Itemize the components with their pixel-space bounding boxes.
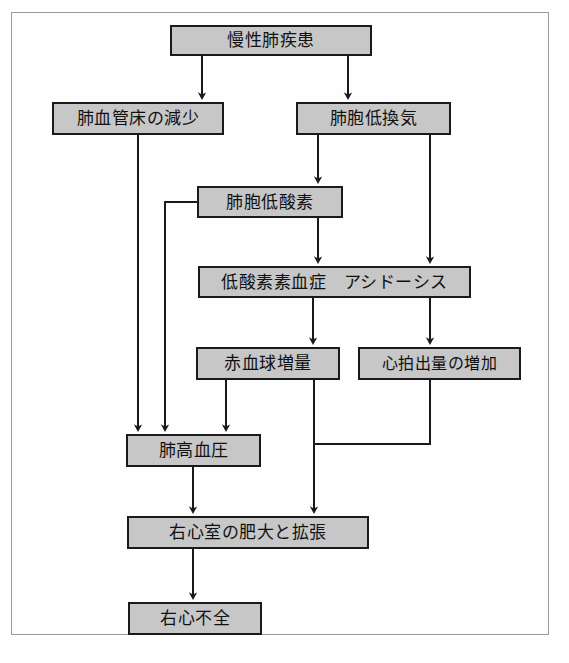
node-alveolar-hypoxia[interactable]: 肺胞低酸素 xyxy=(197,186,343,218)
node-label-chronic-lung-disease: 慢性肺疾患 xyxy=(227,32,315,49)
node-right-heart-failure[interactable]: 右心不全 xyxy=(128,602,262,635)
node-label-pulmonary-hypertension: 肺高血圧 xyxy=(159,442,229,459)
node-hypoxemia-acidosis[interactable]: 低酸素素血症 アシドーシス xyxy=(198,266,471,298)
connector-group xyxy=(138,56,430,596)
node-chronic-lung-disease[interactable]: 慢性肺疾患 xyxy=(170,25,372,56)
node-pulmonary-hypertension[interactable]: 肺高血圧 xyxy=(126,434,261,467)
node-alveolar-hypoventilation[interactable]: 肺胞低換気 xyxy=(296,102,451,135)
node-erythrocytosis[interactable]: 赤血球増量 xyxy=(196,347,340,380)
node-label-increased-cardiac-output: 心拍出量の増加 xyxy=(382,356,498,372)
node-label-erythrocytosis: 赤血球増量 xyxy=(224,355,312,372)
node-label-alveolar-hypoventilation: 肺胞低換気 xyxy=(330,110,418,127)
node-rv-hypertrophy-dilation[interactable]: 右心室の肥大と拡張 xyxy=(127,516,369,549)
node-label-hypoxemia-acidosis: 低酸素素血症 アシドーシス xyxy=(221,274,448,291)
node-label-rv-hypertrophy-dilation: 右心室の肥大と拡張 xyxy=(169,524,327,541)
connector-layer xyxy=(0,0,569,663)
connector-alveolar-hypoxia-to-pulmonary-hypertension xyxy=(165,202,197,428)
node-label-reduced-pulmonary-vascular-bed: 肺血管床の減少 xyxy=(77,110,200,127)
node-reduced-pulmonary-vascular-bed[interactable]: 肺血管床の減少 xyxy=(52,102,224,135)
node-label-right-heart-failure: 右心不全 xyxy=(160,610,230,627)
node-label-alveolar-hypoxia: 肺胞低酸素 xyxy=(226,194,314,211)
node-increased-cardiac-output[interactable]: 心拍出量の増加 xyxy=(358,347,521,380)
connector-increased-cardiac-output-to-rv-hypertrophy-dilation xyxy=(314,380,430,444)
flowchart-page: 慢性肺疾患肺血管床の減少肺胞低換気肺胞低酸素低酸素素血症 アシドーシス赤血球増量… xyxy=(0,0,569,663)
